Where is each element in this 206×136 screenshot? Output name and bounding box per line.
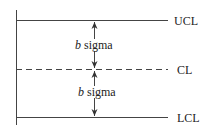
upper-sigma-label: b sigma xyxy=(74,39,114,51)
sigma-text: sigma xyxy=(84,85,116,99)
ucl-label: UCL xyxy=(174,15,198,27)
lower-sigma-label: b sigma xyxy=(77,86,117,98)
lcl-label: LCL xyxy=(177,112,200,124)
cl-label: CL xyxy=(177,64,192,76)
sigma-text: sigma xyxy=(81,38,113,52)
